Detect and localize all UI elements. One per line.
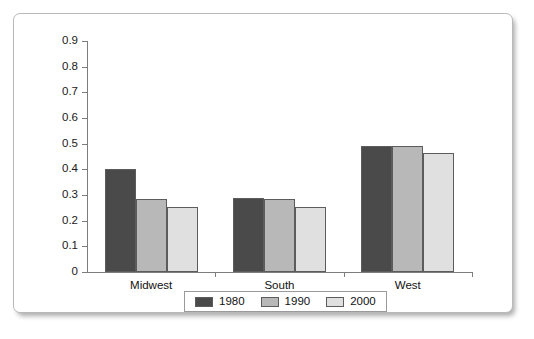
- bar-group: [344, 41, 472, 272]
- bar[interactable]: [233, 198, 264, 272]
- legend-item[interactable]: 1980: [195, 296, 245, 308]
- x-axis-tick: [344, 272, 345, 277]
- category-label: Midwest: [87, 279, 215, 291]
- legend-swatch-icon: [326, 297, 344, 307]
- bar-group: [215, 41, 343, 272]
- bar[interactable]: [423, 153, 454, 272]
- y-axis-tick-label: 0.2: [38, 215, 78, 227]
- chart-frame: 00.10.20.30.40.50.60.70.80.9 MidwestSout…: [13, 13, 513, 313]
- bar[interactable]: [264, 199, 295, 272]
- bar[interactable]: [136, 199, 167, 272]
- x-axis-tick: [472, 272, 473, 277]
- legend-label: 2000: [350, 296, 376, 308]
- legend-label: 1990: [285, 296, 311, 308]
- y-axis-tick-label: 0.5: [38, 138, 78, 150]
- bar-groups: [87, 41, 472, 272]
- legend-swatch-icon: [195, 297, 213, 307]
- bar[interactable]: [105, 169, 136, 272]
- plot-area: 00.10.20.30.40.50.60.70.80.9 MidwestSout…: [14, 14, 514, 314]
- y-axis-tick-label: 0.6: [38, 112, 78, 124]
- y-axis-tick-label: 0: [38, 266, 78, 278]
- y-axis-tick-label: 0.4: [38, 164, 78, 176]
- y-axis-tick-label: 0.8: [38, 61, 78, 73]
- bar[interactable]: [361, 146, 392, 272]
- y-axis-tick-label: 0.7: [38, 87, 78, 99]
- x-axis-tick: [215, 272, 216, 277]
- category-label: West: [344, 279, 472, 291]
- bar[interactable]: [392, 146, 423, 272]
- legend-label: 1980: [219, 296, 245, 308]
- y-axis-tick-label: 0.3: [38, 189, 78, 201]
- bar-group: [87, 41, 215, 272]
- y-axis-tick-label: 0.1: [38, 241, 78, 253]
- legend-item[interactable]: 1990: [261, 296, 311, 308]
- x-axis-line: [87, 272, 472, 273]
- y-axis-tick: [82, 272, 87, 273]
- chart-legend: 198019902000: [184, 291, 387, 312]
- legend-item[interactable]: 2000: [326, 296, 376, 308]
- bar[interactable]: [295, 207, 326, 272]
- legend-swatch-icon: [261, 297, 279, 307]
- screenshot-root: 00.10.20.30.40.50.60.70.80.9 MidwestSout…: [0, 0, 534, 339]
- category-label: South: [215, 279, 343, 291]
- bar[interactable]: [167, 207, 198, 272]
- y-axis-tick-label: 0.9: [38, 35, 78, 47]
